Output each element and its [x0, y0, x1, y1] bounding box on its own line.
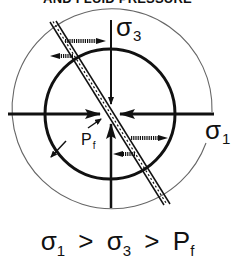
pf-arrow-up [88, 119, 101, 128]
pf-label: Pf [81, 132, 95, 151]
sigma1-label: σ1 [205, 117, 230, 146]
sigma3-label: σ3 [116, 14, 141, 43]
shear-arrows [50, 38, 168, 157]
stress-inequality: σ1 > σ3 > Pf [0, 226, 235, 259]
